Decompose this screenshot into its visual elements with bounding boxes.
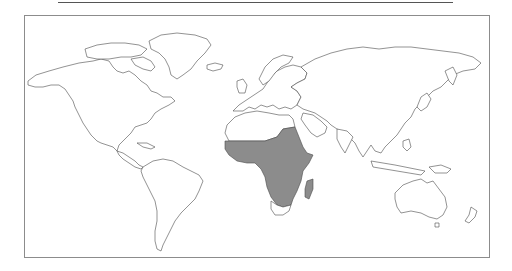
greenland: [149, 33, 211, 79]
north-america: [28, 59, 175, 151]
caribbean-islands: [137, 143, 155, 149]
south-america: [141, 159, 203, 251]
philippines: [403, 139, 411, 151]
iceland: [207, 63, 223, 71]
new-zealand: [465, 207, 477, 223]
baffin-island: [131, 57, 155, 71]
southeast-asia-islands: [371, 161, 425, 175]
arctic-archipelago: [85, 43, 147, 59]
map-frame: World map with highlighted region: [24, 15, 490, 258]
top-rule: [58, 2, 453, 3]
australia: [395, 179, 447, 219]
madagascar: [305, 179, 313, 199]
world-map: [25, 16, 491, 259]
central-america: [117, 151, 143, 169]
british-isles: [237, 79, 247, 93]
tasmania: [435, 223, 439, 227]
asia: [291, 47, 481, 157]
new-guinea: [429, 165, 451, 173]
